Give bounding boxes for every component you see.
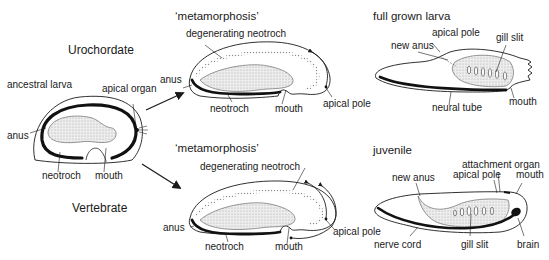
larva-new-anus-label: new anus	[391, 41, 434, 51]
vert-apical-pole-label: apical pole	[333, 227, 381, 237]
ancestral-neotroch-label: neotroch	[42, 171, 81, 181]
larva-neural-tube-label: neural tube	[432, 103, 482, 113]
uro-degenerating-neotroch-label: degenerating neotroch	[186, 29, 286, 39]
juvenile-mouth-label: mouth	[516, 170, 544, 180]
vert-degenerating-neotroch-label: degenerating neotroch	[200, 162, 300, 172]
ancestral-apical-organ-label: apical organ	[102, 84, 156, 94]
juvenile-title: juvenile	[373, 145, 412, 157]
ancestral-larva-drawing	[30, 96, 148, 172]
juvenile-new-anus-label: new anus	[392, 173, 435, 183]
uro-metamorphosis-drawing	[183, 42, 332, 104]
arrow-to-urochordate	[146, 93, 183, 110]
ancestral-mouth-label: mouth	[95, 171, 123, 181]
vert-mouth-label: mouth	[275, 242, 303, 252]
vertebrate-heading: Vertebrate	[72, 202, 127, 214]
full-grown-larva-title: full grown larva	[373, 11, 450, 23]
vert-metamorphosis-title: ‘metamorphosis’	[175, 143, 259, 155]
ancestral-larva-title: ancestral larva	[7, 80, 72, 90]
juvenile-brain-label: brain	[517, 240, 539, 250]
evolution-diagram: Urochordate Vertebrate ancestral larva a…	[0, 0, 549, 260]
arrow-to-vertebrate	[142, 164, 180, 188]
vert-metamorphosis-drawing	[189, 168, 336, 244]
juvenile-gill-slit-label: gill slit	[461, 240, 488, 250]
juvenile-apical-pole-label: apical pole	[453, 170, 501, 180]
uro-neotroch-label: neotroch	[210, 104, 249, 114]
uro-mouth-label: mouth	[275, 104, 303, 114]
uro-metamorphosis-title: ‘metamorphosis’	[175, 11, 259, 23]
juvenile-nerve-cord-label: nerve cord	[374, 240, 421, 250]
larva-mouth-label: mouth	[509, 97, 537, 107]
uro-anus-label: anus	[160, 75, 182, 85]
ancestral-anus-label: anus	[7, 131, 29, 141]
urochordate-heading: Urochordate	[68, 44, 134, 56]
vert-neotroch-label: neotroch	[205, 242, 244, 252]
larva-gill-slit-label: gill slit	[496, 33, 523, 43]
larva-apical-pole-label: apical pole	[432, 28, 480, 38]
uro-apical-pole-label: apical pole	[323, 99, 371, 109]
vert-anus-label: anus	[163, 223, 185, 233]
